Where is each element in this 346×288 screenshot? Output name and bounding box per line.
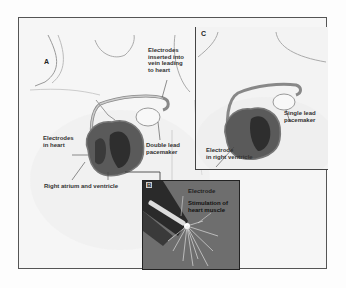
panel-c-letter: C xyxy=(201,30,206,37)
label-electrode-right-ventricle: Electrode in right ventricle xyxy=(206,147,253,160)
label-electrode: Electrode xyxy=(188,188,215,195)
panel-c: C Single lead pacemaker Electrode in rig… xyxy=(195,27,328,170)
label-double-lead-pacemaker: Double lead pacemaker xyxy=(146,142,180,155)
label-electrodes-vein: Electrodes inserted into vein leading to… xyxy=(148,47,184,73)
label-single-lead-pacemaker: Single lead pacemaker xyxy=(284,110,316,123)
panel-b: B Electrode Stimulation of heart muscle xyxy=(142,180,240,270)
panel-b-letter: B xyxy=(146,182,152,188)
panel-a-letter: A xyxy=(44,58,49,65)
label-electrodes-in-heart: Electrodes in heart xyxy=(43,135,74,148)
label-stimulation: Stimulation of heart muscle xyxy=(188,200,228,213)
label-right-atrium-ventricle: Right atrium and ventricle xyxy=(44,183,118,190)
